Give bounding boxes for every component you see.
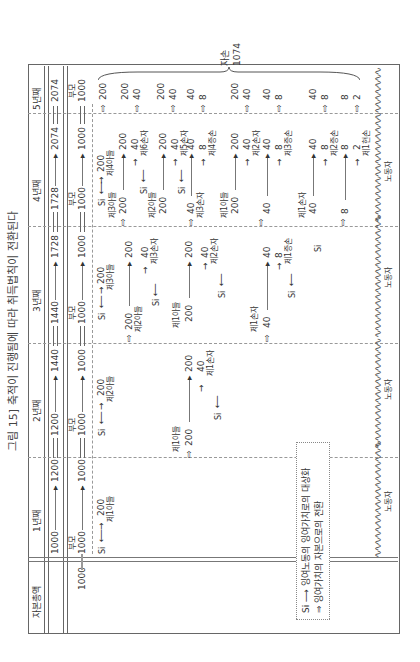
parents-transfer-3: [80, 212, 85, 232]
parents-arrow-3: [82, 264, 83, 300]
labor-label-y1: 노동자: [384, 491, 394, 512]
gs2-y4-end: 40: [262, 139, 272, 150]
parents-transfer-4: [80, 106, 85, 124]
parents-transfer-1: [80, 438, 85, 458]
son2-y3-label: 제2아들: [134, 306, 144, 332]
ggs1-birth-value: 8: [274, 252, 284, 258]
total-y3-start: 1440: [50, 301, 60, 324]
gs1-y4-label: 제1손자: [298, 192, 308, 218]
si-y3-son1: Si: [218, 291, 228, 298]
y5-gs3: 40: [186, 89, 196, 100]
year-3-header: 3년째: [32, 290, 42, 312]
legend-row1-text: 잉여노동의 잉여가치로의 대상화: [301, 468, 311, 586]
gs4-birth-label: 제2손자: [252, 130, 262, 156]
son2-y4-value: 200: [158, 197, 168, 214]
ggs2-birth-label: 제2증손: [330, 130, 340, 156]
year-2-header: 2년째: [32, 400, 42, 422]
labor-wave-3: ∿∿∿∿∿∿∿∿∿∿∿∿∿∿∿∿∿∿∿: [372, 217, 383, 338]
total-transfer-1: [53, 438, 58, 458]
gs1-birth-value: 40: [196, 361, 206, 372]
ggs4-birth-value: 8: [198, 144, 208, 150]
si-y3-extra: Si: [314, 245, 324, 252]
parents-arrow-2: [82, 376, 83, 412]
gs3-y4-value: 40: [186, 203, 196, 214]
gs1-y4-value: 40: [308, 203, 318, 214]
gs1-y3-label: 제1손자: [250, 306, 260, 332]
si-y3-son2: Si: [152, 299, 162, 306]
labor-label-y3: 노동자: [384, 267, 394, 288]
parents-y4-end: 1000: [77, 127, 87, 150]
son2-y4-end: 200: [158, 133, 168, 150]
total-y1-end: 1200: [50, 459, 60, 482]
ggs1-y4-end: 8: [340, 144, 350, 150]
row-header-total-capital: 자본총액: [32, 586, 42, 618]
labor-label-y4: 노동자: [384, 161, 394, 182]
surplus-boundary: [92, 104, 93, 554]
total-start: 1000: [50, 531, 60, 554]
son1-y2-end: 200: [184, 355, 194, 372]
y5-son4: 200: [98, 83, 108, 100]
gs5-birth-value: 40: [170, 139, 180, 150]
y5-ggs1: 8: [340, 94, 350, 100]
legend-row-capitalization: ⇒ 잉여가치의 자본으로의 전환: [313, 449, 326, 613]
parents-arrow-4: [82, 156, 83, 186]
legend-row2-text: 잉여가치의 자본으로의 전환: [314, 501, 324, 603]
total-y2-end: 1440: [50, 349, 60, 372]
total-arrow-4: [55, 156, 56, 186]
y5-gs6: 40: [132, 89, 142, 100]
son2-birth-label: 제2아들: [106, 376, 116, 402]
legend-double-arrow-symbol: ⇒: [314, 605, 324, 613]
parents-y1-end: 1000: [77, 459, 87, 482]
total-arrow-1: [55, 486, 56, 530]
son4-birth-label: 제4아들: [106, 150, 116, 176]
son1-birth-label: 제1아들: [106, 496, 116, 522]
y5-gs2b: 40: [262, 89, 272, 100]
son1-y3-end: 200: [184, 241, 194, 258]
ggs1-y4-value: 8: [340, 208, 350, 214]
y5-son3: 200: [120, 83, 130, 100]
header-parents-value: 1000: [77, 567, 87, 590]
descendants-brace: [98, 66, 360, 82]
ggs1-birth-label: 제1증손: [284, 238, 294, 264]
y5-gs5: 40: [168, 89, 178, 100]
total-y4-end: 2074: [50, 127, 60, 150]
son3-birth-label: 제3아들: [106, 264, 116, 290]
figure-title: 그림 15] 축적이 진행됨에 따라 취득법칙이 전환된다: [4, 0, 20, 662]
parents-y3-end: 1000: [77, 235, 87, 258]
gs3-birth-label: 제3손자: [150, 238, 160, 264]
son1-y4-label: 제1아들: [220, 192, 230, 218]
parents-y4-start: 1000: [77, 187, 87, 210]
gggs1-birth-value: 2: [352, 144, 362, 150]
gs2-birth-label: 제2손자: [210, 238, 220, 264]
year-4-header: 4년째: [32, 180, 42, 202]
si-y2-parents: Si: [98, 429, 108, 436]
parents-initial-bar: [81, 554, 83, 570]
total-y4-start: 1728: [50, 187, 60, 210]
son2-y3-value: 200: [124, 313, 134, 330]
legend-box: Si ⟶ 잉여노동의 잉여가치로의 대상화 ⇒ 잉여가치의 자본으로의 전환: [296, 442, 330, 620]
legend-row-surplus-value: Si ⟶ 잉여노동의 잉여가치로의 대상화: [300, 449, 313, 613]
y5-ggs3: 8: [274, 94, 284, 100]
son1-y3-label: 제1아들: [172, 302, 182, 328]
labor-wave-2: ∿∿∿∿∿∿∿∿∿∿∿∿∿∿∿∿∿: [372, 340, 383, 448]
total-y5: 2074: [50, 79, 60, 102]
descendants-label: 자손: [220, 50, 230, 66]
si-y4-son2: Si: [178, 187, 188, 194]
son1-y2-value: 200: [184, 429, 194, 446]
si-y3-parents: Si: [98, 313, 108, 320]
parents-y5: 1000: [77, 79, 87, 102]
gs3-birth-value: 40: [140, 247, 150, 258]
y5-gs2: 40: [242, 89, 252, 100]
labor-wave-4: ∿∿∿∿∿∿∿∿∿∿∿∿∿∿∿∿∿∿∿∿∿∿∿∿: [372, 69, 383, 222]
ggs4-birth-label: 제4증손: [208, 130, 218, 156]
son1-y3-value: 200: [184, 305, 194, 322]
year-1-header: 1년째: [32, 510, 42, 532]
gs1-birth-label: 제1손자: [206, 350, 216, 376]
total-y3-end: 1728: [50, 235, 60, 258]
ggs3-birth-value: 8: [274, 144, 284, 150]
ggs2-birth-value: 8: [320, 144, 330, 150]
y5-gs1: 40: [308, 89, 318, 100]
total-transfer-3: [53, 212, 58, 232]
si-y1: Si: [98, 547, 108, 554]
gggs1-birth-label: 제1현손: [362, 130, 372, 156]
